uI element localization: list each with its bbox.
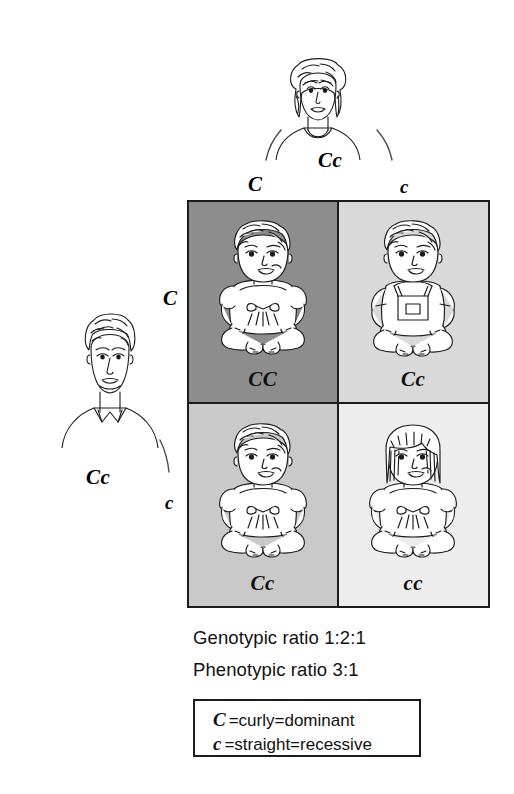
baby-straight-dress-icon bbox=[354, 423, 472, 561]
baby-figure-wrapper bbox=[204, 210, 322, 367]
baby-curly-overalls-icon bbox=[354, 220, 472, 358]
row-header-c: c bbox=[165, 492, 174, 514]
cell-genotype-cc: cc bbox=[403, 571, 423, 596]
punnett-cell-CC[interactable]: CC bbox=[189, 202, 339, 404]
baby-figure-wrapper bbox=[354, 210, 472, 367]
cell-genotype-Cc-bottom: Cc bbox=[251, 571, 275, 596]
punnett-cell-Cc-bottom[interactable]: Cc bbox=[189, 404, 339, 606]
punnett-cell-cc[interactable]: cc bbox=[339, 404, 489, 606]
legend-symbol-C: C bbox=[213, 709, 226, 730]
cell-genotype-Cc-top: Cc bbox=[401, 367, 425, 392]
cell-genotype-CC: CC bbox=[248, 367, 277, 392]
baby-figure-wrapper bbox=[354, 412, 472, 571]
legend-symbol-c: c bbox=[213, 733, 221, 754]
genotypic-ratio-text: Genotypic ratio 1:2:1 bbox=[193, 627, 366, 649]
legend-text-C: =curly=dominant bbox=[229, 711, 355, 730]
punnett-cell-Cc-top[interactable]: Cc bbox=[339, 202, 489, 404]
row-header-C: C bbox=[163, 286, 178, 311]
legend-box: C=curly=dominant c=straight=recessive bbox=[193, 699, 421, 757]
legend-line-dominant: C=curly=dominant bbox=[213, 708, 419, 732]
column-header-c: c bbox=[400, 176, 409, 198]
baby-curly-dress-icon bbox=[204, 423, 322, 561]
punnett-square-grid: CC bbox=[187, 200, 490, 608]
phenotypic-ratio-text: Phenotypic ratio 3:1 bbox=[193, 659, 359, 681]
legend-text-c: =straight=recessive bbox=[224, 735, 371, 754]
baby-curly-dress-icon bbox=[204, 220, 322, 358]
baby-figure-wrapper bbox=[204, 412, 322, 571]
legend-line-recessive: c=straight=recessive bbox=[213, 732, 419, 756]
column-header-C: C bbox=[248, 172, 263, 197]
